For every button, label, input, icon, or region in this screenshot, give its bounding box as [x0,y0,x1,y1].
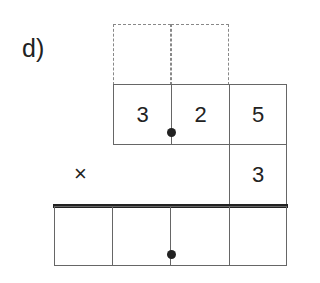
result-box-4[interactable] [229,206,287,266]
multiplicand-digit-2: 2 [171,84,230,145]
multiplier-digit-1: 3 [229,144,287,206]
carry-box-2[interactable] [171,24,229,85]
decimal-point-icon [167,250,176,259]
multiplicand-digit-1: 3 [113,84,172,145]
multiplicand-digit-3: 5 [229,84,287,145]
result-box-1[interactable] [54,206,113,266]
decimal-point-icon [167,128,176,137]
multiply-sign: × [74,161,87,187]
carry-box-1[interactable] [113,24,171,85]
exercise-label: d) [22,34,44,63]
